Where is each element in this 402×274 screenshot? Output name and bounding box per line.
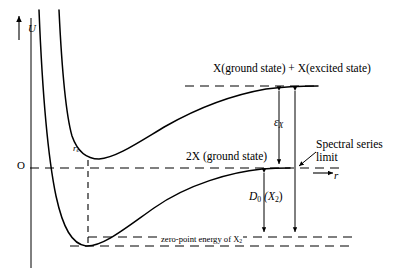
potential-energy-diagram: U r O re X(ground state) + X(excited sta… — [0, 0, 402, 274]
zero-point-energy-label: zero-point energy of X2 — [160, 235, 243, 245]
diagram-canvas — [0, 0, 402, 274]
d0-label: D0 (X2) — [249, 190, 283, 204]
epsilon-x-label: εX — [274, 116, 283, 130]
spectral-series-limit-pointer — [299, 152, 316, 166]
origin-label: O — [17, 159, 25, 171]
y-axis-label: U — [28, 22, 36, 34]
x-axis-label: r — [334, 169, 338, 181]
equilibrium-distance-label: re — [73, 143, 79, 154]
dissociation-limit-label: X(ground state) + X(excited state) — [213, 62, 371, 75]
ground-state-curve — [39, 10, 290, 246]
ground-state-label: 2X (ground state) — [186, 150, 267, 163]
spectral-series-limit-label: Spectral series limit — [316, 138, 383, 164]
